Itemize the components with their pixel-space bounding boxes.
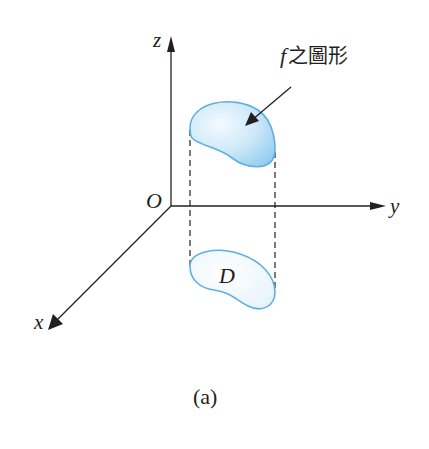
- x-axis-label: x: [34, 312, 43, 333]
- diagram-canvas: z y x O f之圖形 D (a): [0, 0, 429, 449]
- caption: (a): [193, 386, 217, 408]
- z-axis-label: z: [153, 30, 161, 51]
- diagram-svg: [0, 0, 429, 449]
- region-label: D: [219, 265, 235, 287]
- z-axis: [167, 36, 175, 206]
- surface-label: f之圖形: [280, 45, 348, 67]
- y-axis-label: y: [390, 196, 399, 217]
- origin-label: O: [146, 190, 162, 212]
- y-axis-arrow-icon: [370, 202, 386, 210]
- surface-label-f: f: [280, 43, 286, 68]
- z-axis-arrow-icon: [167, 36, 175, 52]
- surface-label-text: 之圖形: [288, 44, 348, 68]
- x-axis: [48, 206, 171, 330]
- y-axis: [171, 202, 386, 210]
